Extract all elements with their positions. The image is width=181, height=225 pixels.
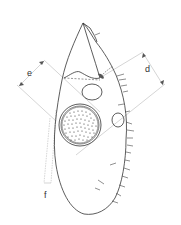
setae (95, 33, 134, 203)
stippled-disc (59, 104, 101, 146)
label-e: e (27, 68, 32, 78)
label-f: f (44, 190, 47, 200)
label-d: d (145, 64, 150, 74)
specimen-drawing: e d f (0, 0, 181, 225)
measurement-arrows (19, 53, 164, 86)
diagram: e d f (0, 0, 181, 225)
body-outline (54, 23, 126, 214)
